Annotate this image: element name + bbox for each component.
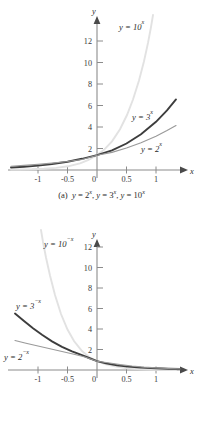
panel-b-ytick-label-1: 4 — [88, 325, 92, 334]
panel-b-xtick-label-2: 0 — [92, 375, 96, 384]
panel-b-x-axis-arrow — [180, 367, 188, 374]
panel-a-label-2x: y = 2x — [140, 141, 162, 154]
panel-a-xtick-label-1: -0.5 — [61, 175, 74, 184]
panel-a-x-axis-arrow — [180, 167, 188, 174]
panel-a-label-3x: y = 3x — [131, 109, 153, 122]
panel-b-y-axis-label: y — [91, 230, 96, 239]
panel-a: x y -1 -0.5 0 0.5 1 2 4 6 8 10 12 y = 10… — [0, 0, 203, 215]
panel-a-ytick-label-5: 12 — [84, 37, 92, 46]
panel-b-plot: x y -1 -0.5 0 0.5 1 2 4 6 8 10 12 y = 10… — [0, 215, 203, 410]
panel-a-ytick-label-1: 4 — [88, 123, 92, 132]
panel-b-x-axis-label: x — [189, 367, 194, 376]
panel-a-ytick-label-4: 10 — [84, 59, 92, 68]
panel-a-xtick-label-0: -1 — [35, 175, 42, 184]
panel-a-ytick-label-0: 2 — [88, 145, 92, 154]
panel-b-xtick-label-1: -0.5 — [61, 375, 74, 384]
panel-b-label-10negx: y = 10−x — [43, 236, 74, 249]
panel-a-ytick-label-3: 8 — [88, 80, 92, 89]
panel-a-xtick-label-2: 0 — [92, 175, 96, 184]
panel-a-caption: (a) y = 2x, y = 3x, y = 10x — [0, 189, 203, 200]
panel-a-ytick-label-2: 6 — [88, 102, 92, 111]
panel-b-curve-10negx — [41, 230, 176, 370]
panel-b-ytick-label-4: 10 — [84, 264, 92, 273]
panel-b-ytick-label-3: 8 — [88, 284, 92, 293]
panel-b-xtick-label-4: 1 — [154, 375, 158, 384]
panel-b-xtick-label-0: -1 — [35, 375, 42, 384]
panel-a-xtick-label-3: 0.5 — [121, 175, 131, 184]
panel-b: x y -1 -0.5 0 0.5 1 2 4 6 8 10 12 y = 10… — [0, 215, 203, 437]
panel-a-plot: x y -1 -0.5 0 0.5 1 2 4 6 8 10 12 y = 10… — [0, 0, 203, 190]
panel-b-label-3negx: y = 3−x — [15, 298, 41, 311]
panel-b-y-axis-arrow — [94, 239, 101, 247]
panel-a-caption-tag: (a) — [58, 190, 68, 200]
panel-a-y-axis-arrow — [94, 16, 101, 24]
panel-b-ytick-label-2: 6 — [88, 305, 92, 314]
panel-b-ytick-label-5: 12 — [84, 243, 92, 252]
exponential-functions-figure: x y -1 -0.5 0 0.5 1 2 4 6 8 10 12 y = 10… — [0, 0, 203, 437]
panel-b-ytick-label-0: 2 — [88, 346, 92, 355]
panel-b-xtick-label-3: 0.5 — [121, 375, 131, 384]
panel-b-label-2negx: y = 2−x — [3, 349, 29, 362]
panel-a-x-axis-label: x — [189, 167, 194, 176]
panel-a-xtick-label-4: 1 — [154, 175, 158, 184]
panel-a-label-10x: y = 10x — [118, 19, 145, 32]
panel-a-y-axis-label: y — [91, 7, 96, 16]
